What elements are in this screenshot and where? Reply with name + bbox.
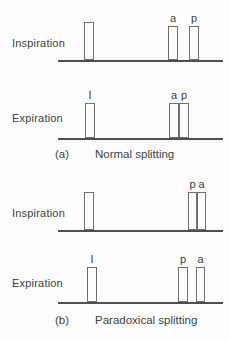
sound-label-I: I <box>88 89 91 102</box>
row-label-inspiration-b: Inspiration <box>12 207 65 219</box>
timeline-baseline <box>58 60 223 62</box>
heart-sound-bar-I <box>85 103 95 138</box>
heart-sound-bar-I <box>87 267 97 302</box>
heart-sound-splitting-figure: Inspiration Expiration Inspiration Expir… <box>0 0 229 341</box>
panel-b-caption-text: Paradoxical splitting <box>95 314 197 326</box>
heart-sound-bar-a <box>169 103 179 138</box>
heart-sound-bar-a <box>196 267 205 302</box>
sound-label-a: a <box>170 12 176 25</box>
panel-a-caption-text: Normal splitting <box>95 148 174 160</box>
row-label-expiration-b: Expiration <box>12 277 63 289</box>
panel-b-caption-label: (b) <box>55 314 69 326</box>
timeline-baseline <box>58 302 223 304</box>
panel-a-caption-label: (a) <box>55 148 69 160</box>
timeline-baseline <box>58 230 223 232</box>
heart-sound-bar-p <box>178 267 188 302</box>
sound-label-I: I <box>90 253 93 266</box>
timeline-baseline <box>58 138 223 140</box>
sound-label-a: a <box>198 178 204 191</box>
heart-sound-bar-p <box>179 103 189 138</box>
row-label-inspiration-a: Inspiration <box>12 37 65 49</box>
sound-label-p: p <box>191 12 197 25</box>
heart-sound-bar-a <box>197 192 206 230</box>
heart-sound-bar-p <box>189 26 199 60</box>
row-label-expiration-a: Expiration <box>12 112 63 124</box>
heart-sound-bar-p <box>188 192 197 230</box>
heart-sound-bar <box>84 22 94 60</box>
sound-label-p: p <box>189 178 195 191</box>
heart-sound-bar-a <box>168 26 178 60</box>
sound-label-p: p <box>180 253 186 266</box>
heart-sound-bar <box>84 192 94 230</box>
sound-label-p: p <box>181 89 187 102</box>
sound-label-a: a <box>171 89 177 102</box>
sound-label-a: a <box>197 253 203 266</box>
